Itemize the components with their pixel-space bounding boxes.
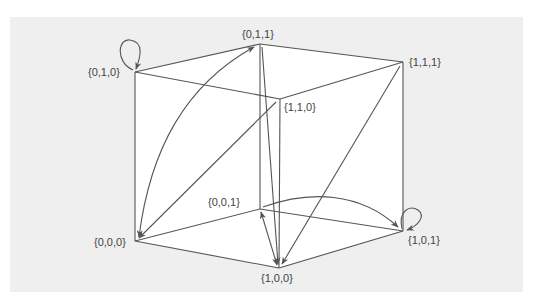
- node-label-010: {0,1,0}: [88, 66, 120, 78]
- self-loop-010: [120, 40, 140, 70]
- node-label-110: {1,1,0}: [284, 101, 316, 113]
- node-label-100: {1,0,0}: [261, 272, 293, 284]
- node-label-111: {1,1,1}: [409, 56, 441, 68]
- node-label-011: {0,1,1}: [242, 28, 274, 40]
- node-label-000: {0,0,0}: [94, 236, 126, 248]
- state-cube-diagram: {0,1,0} {0,1,1} {1,1,1} {1,1,0} {0,0,1} …: [0, 0, 535, 301]
- self-loop-101: [401, 208, 421, 230]
- node-label-001: {0,0,1}: [208, 196, 240, 208]
- node-label-101: {1,0,1}: [408, 234, 440, 246]
